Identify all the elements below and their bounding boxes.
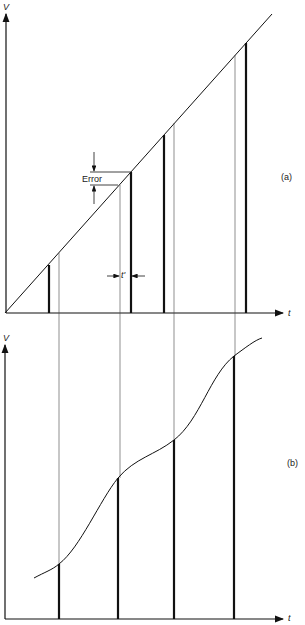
delay-label: t' xyxy=(121,271,125,280)
panel-b-x-label: t xyxy=(288,614,291,623)
panel-b-bars xyxy=(59,356,234,619)
panel-b-y-label: V xyxy=(3,334,9,343)
panel-a-y-label: V xyxy=(3,3,9,12)
sampling-diagram xyxy=(0,0,305,625)
signal-curve xyxy=(34,338,262,578)
panel-b-label: (b) xyxy=(287,459,298,468)
error-label: Error xyxy=(82,175,102,184)
panel-a-bars xyxy=(49,43,246,313)
ramp-line xyxy=(5,14,272,313)
panel-b-axes xyxy=(5,345,283,619)
panel-a-label: (a) xyxy=(281,173,292,182)
panel-a-axes xyxy=(6,14,283,313)
panel-a-x-label: t xyxy=(288,309,291,318)
reference-lines xyxy=(59,55,235,564)
